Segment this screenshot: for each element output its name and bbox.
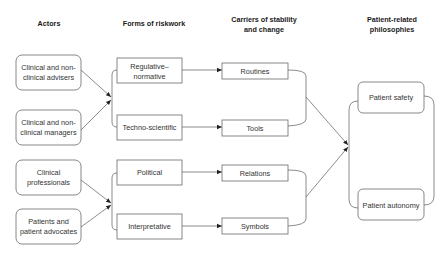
header-forms: Forms of riskwork <box>123 19 185 28</box>
form-regulative-normative: Regulative– normative <box>117 58 182 83</box>
actor-managers: Clinical and non- clinical managers <box>16 110 81 145</box>
svg-text:Patient safety: Patient safety <box>369 93 414 102</box>
carrier-brackets <box>288 70 348 226</box>
actor-advisers: Clinical and non- clinical advisers <box>16 55 81 90</box>
column-headers: Actors Forms of riskwork Carriers of sta… <box>38 15 417 34</box>
svg-text:Relations: Relations <box>240 169 271 178</box>
svg-text:Clinical and non-: Clinical and non- <box>21 118 76 127</box>
header-actors: Actors <box>38 19 61 28</box>
philosophy-patient-safety: Patient safety <box>358 82 424 113</box>
header-philosophies-line2: philosophies <box>370 25 414 34</box>
carrier-symbols: Symbols <box>222 218 288 234</box>
svg-text:clinical advisers: clinical advisers <box>23 73 74 82</box>
riskwork-diagram: Actors Forms of riskwork Carriers of sta… <box>0 0 447 253</box>
svg-text:Patients and: Patients and <box>28 217 69 226</box>
svg-text:patient advocates: patient advocates <box>20 227 78 236</box>
actor-connectors <box>81 70 111 227</box>
svg-text:Interpretative: Interpretative <box>128 222 171 231</box>
actors-column: Clinical and non- clinical advisers Clin… <box>16 55 81 244</box>
svg-text:Regulative–: Regulative– <box>130 62 169 71</box>
form-interpretative: Interpretative <box>117 214 182 239</box>
carriers-column: Routines Tools Relations Symbols <box>222 63 288 234</box>
svg-text:Clinical and non-: Clinical and non- <box>21 63 76 72</box>
carrier-routines: Routines <box>222 63 288 79</box>
svg-text:Routines: Routines <box>241 67 270 76</box>
philosophies-column: Patient safety Patient autonomy <box>349 82 434 220</box>
forms-column: Regulative– normative Techno-scientific … <box>117 58 182 239</box>
carrier-tools: Tools <box>222 120 288 136</box>
svg-text:Clinical: Clinical <box>37 168 61 177</box>
header-philosophies-line1: Patient-related <box>367 15 417 24</box>
header-carriers-line2: and change <box>244 25 284 34</box>
svg-text:Tools: Tools <box>246 124 263 133</box>
form-brackets <box>112 70 117 230</box>
svg-text:clinical managers: clinical managers <box>20 128 77 137</box>
actor-patients: Patients and patient advocates <box>16 209 81 244</box>
form-techno-scientific: Techno-scientific <box>117 115 182 140</box>
philosophy-patient-autonomy: Patient autonomy <box>358 189 424 220</box>
philosophies-container <box>349 101 358 208</box>
svg-text:Political: Political <box>137 168 163 177</box>
carrier-relations: Relations <box>222 165 288 181</box>
svg-text:professionals: professionals <box>27 178 70 187</box>
svg-text:Patient autonomy: Patient autonomy <box>363 201 420 210</box>
actor-clinical-professionals: Clinical professionals <box>16 160 81 195</box>
form-political: Political <box>117 160 182 185</box>
svg-text:normative: normative <box>133 72 165 81</box>
header-carriers-line1: Carriers of stability <box>231 15 297 24</box>
svg-text:Symbols: Symbols <box>241 222 269 231</box>
form-to-carrier-arrows <box>182 70 222 226</box>
svg-text:Techno-scientific: Techno-scientific <box>123 123 177 132</box>
